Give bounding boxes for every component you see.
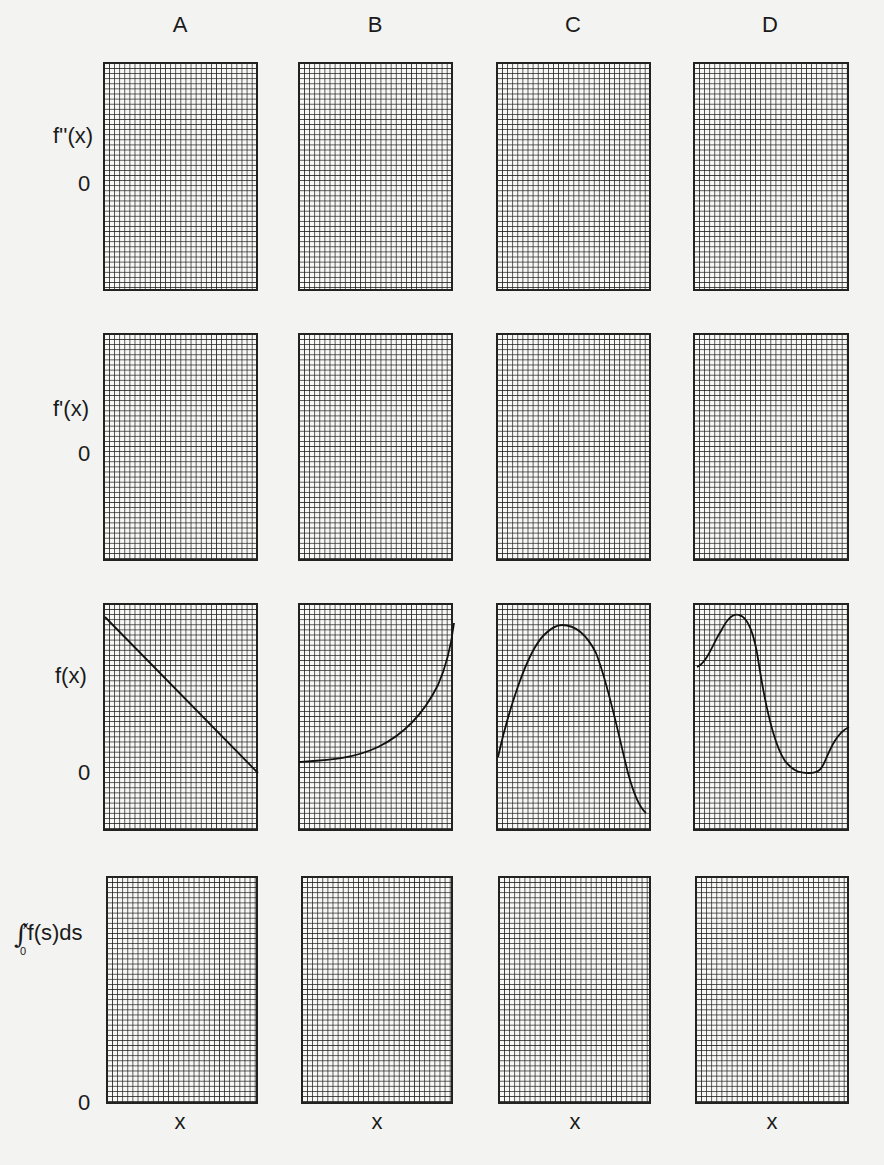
integral-symbol: ∫ x 0 (14, 922, 28, 945)
zero-label-row2: 0 (78, 443, 90, 465)
zero-label-row1: 0 (78, 173, 90, 195)
x-axis-label-d: x (752, 1111, 792, 1133)
panel-d-first-derivative (693, 333, 849, 561)
zero-label-row3: 0 (78, 762, 90, 784)
row-label-integral: ∫ x 0 f(s)ds (14, 922, 83, 945)
panel-d-function (693, 603, 849, 831)
integral-body: f(s)ds (28, 920, 83, 945)
panel-c-first-derivative (496, 333, 651, 561)
panel-d-second-derivative (693, 62, 849, 291)
integral-lower-limit: 0 (20, 940, 26, 962)
panel-c-integral (498, 876, 651, 1104)
panel-b-first-derivative (298, 333, 453, 561)
panel-b-function (298, 603, 453, 831)
zero-label-row4: 0 (78, 1092, 90, 1114)
curve-b-exponential (298, 603, 453, 831)
column-header-b: B (355, 14, 395, 36)
panel-a-function (103, 603, 258, 831)
column-header-a: A (160, 14, 200, 36)
curve-c-hump (496, 603, 651, 831)
x-axis-label-a: x (160, 1111, 200, 1133)
panel-a-first-derivative (103, 333, 258, 561)
panel-a-integral (106, 876, 258, 1104)
column-header-c: C (553, 14, 593, 36)
row-label-function: f(x) (55, 665, 87, 687)
integral-upper-limit: x (23, 914, 29, 936)
curve-d-sine (693, 603, 849, 831)
row-label-second-derivative: f''(x) (53, 125, 93, 147)
curve-a-linear (103, 603, 258, 831)
x-axis-label-b: x (357, 1111, 397, 1133)
panel-b-integral (301, 876, 453, 1104)
row-label-first-derivative: f'(x) (53, 398, 89, 420)
panel-c-second-derivative (496, 62, 651, 291)
panel-a-second-derivative (103, 62, 258, 291)
x-axis-label-c: x (555, 1111, 595, 1133)
panel-c-function (496, 603, 651, 831)
panel-d-integral (695, 876, 849, 1104)
panel-b-second-derivative (298, 62, 453, 291)
column-header-d: D (750, 14, 790, 36)
